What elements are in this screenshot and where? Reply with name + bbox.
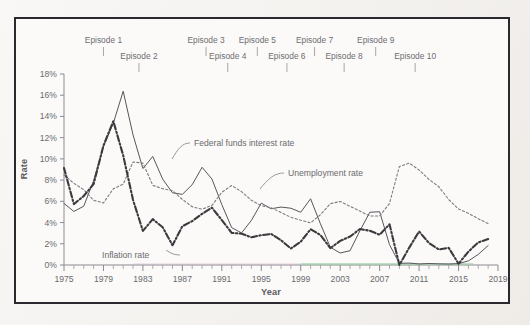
y-axis: 0%2%4%6%8%10%12%14%16%18% [40,69,64,270]
episode-label: Episode 3 [187,35,225,45]
episode-label: Episode 7 [296,35,334,45]
y-tick-label: 2% [45,239,58,249]
x-tick-label: 1987 [173,274,192,284]
figure-frame: Episode 1Episode 2Episode 3Episode 4Epis… [14,17,510,304]
episode-label: Episode 5 [239,35,277,45]
x-tick-label: 1979 [94,274,113,284]
y-tick-label: 4% [45,218,58,228]
episode-label: Episode 9 [357,35,395,45]
x-tick-label: 2019 [488,274,507,284]
series-annotations: Federal funds interest rateUnemployment … [102,138,363,260]
y-tick-label: 12% [40,133,58,143]
episode-label: Episode 2 [120,51,158,61]
episode-label: Episode 4 [209,51,247,61]
episode-label: Episode 6 [268,51,306,61]
x-tick-label: 2015 [449,274,468,284]
episode-label: Episode 10 [394,51,436,61]
x-tick-label: 2011 [410,274,429,284]
line-chart: Episode 1Episode 2Episode 3Episode 4Epis… [16,19,508,302]
y-axis-title: Rate [19,159,29,180]
x-axis: 1975197919831987199119951999200320072011… [54,265,507,284]
x-axis-title: Year [261,287,281,297]
x-tick-label: 2003 [331,274,350,284]
inflation-label: Inflation rate [102,250,150,260]
episode-annotations: Episode 1Episode 2Episode 3Episode 4Epis… [85,35,437,72]
y-tick-label: 14% [40,111,58,121]
plot-area: Episode 1Episode 2Episode 3Episode 4Epis… [16,19,508,302]
x-tick-label: 1991 [212,274,231,284]
episode-label: Episode 8 [326,51,364,61]
page-background: Episode 1Episode 2Episode 3Episode 4Epis… [0,0,530,325]
data-series-group [64,91,488,265]
x-tick-label: 1983 [133,274,152,284]
x-tick-label: 1999 [291,274,310,284]
episode-label: Episode 1 [85,35,123,45]
federal-funds-label: Federal funds interest rate [194,138,295,148]
y-tick-label: 16% [40,90,58,100]
y-tick-label: 6% [45,196,58,206]
y-tick-label: 10% [40,154,58,164]
unemployment-label: Unemployment rate [288,168,363,178]
y-tick-label: 0% [45,260,58,270]
x-tick-label: 1975 [54,274,73,284]
y-tick-label: 8% [45,175,58,185]
x-tick-label: 1995 [252,274,271,284]
y-tick-label: 18% [40,69,58,79]
x-tick-label: 2007 [370,274,389,284]
